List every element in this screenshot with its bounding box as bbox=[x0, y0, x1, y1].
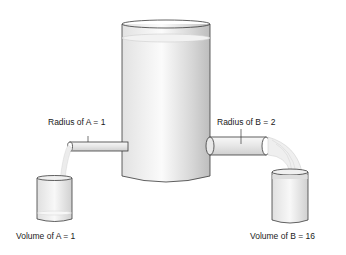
radius-a-label: Radius of A = 1 bbox=[48, 117, 105, 127]
tank bbox=[122, 20, 210, 182]
pipe-a bbox=[68, 136, 129, 151]
cup-a bbox=[37, 176, 72, 222]
pipe-b bbox=[206, 129, 270, 155]
cup-b bbox=[272, 169, 308, 223]
diagram-graphic bbox=[0, 0, 346, 255]
flow-diagram: Radius of A = 1 Radius of B = 2 Volume o… bbox=[0, 0, 346, 255]
volume-b-label: Volume of B = 16 bbox=[250, 231, 315, 241]
volume-a-label: Volume of A = 1 bbox=[16, 231, 75, 241]
stream-b bbox=[268, 137, 302, 172]
radius-b-label: Radius of B = 2 bbox=[217, 117, 275, 127]
